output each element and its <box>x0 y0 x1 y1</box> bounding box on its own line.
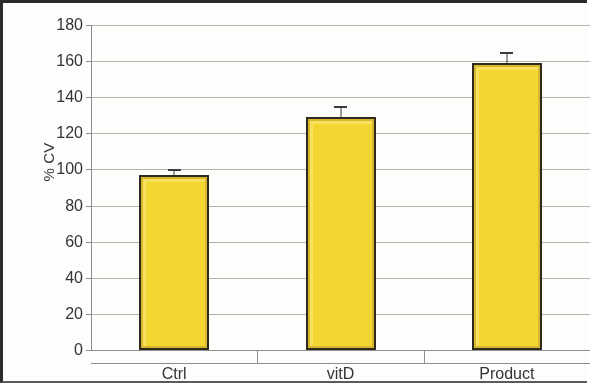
y-tick-mark <box>86 350 92 351</box>
plot-area <box>91 25 590 350</box>
y-tick-label: 40 <box>37 270 83 286</box>
x-tick-label: Ctrl <box>114 365 234 383</box>
bar-group[interactable] <box>472 25 542 350</box>
error-bar-cap <box>334 106 347 108</box>
y-axis-tick-labels: 020406080100120140160180 <box>31 3 83 383</box>
y-tick-label: 100 <box>37 161 83 177</box>
y-tick-label: 0 <box>37 342 83 358</box>
error-bar <box>340 106 341 117</box>
y-tick-label: 80 <box>37 198 83 214</box>
y-tick-label: 160 <box>37 53 83 69</box>
bar-group[interactable] <box>139 25 209 350</box>
y-tick-label: 140 <box>37 89 83 105</box>
y-tick-label: 120 <box>37 125 83 141</box>
gridline <box>91 350 590 351</box>
x-separator-tick <box>424 350 425 363</box>
x-tick-label: Product <box>447 365 567 383</box>
error-bar-cap <box>500 52 513 54</box>
x-axis-line <box>91 363 590 364</box>
x-tick-label: vitD <box>281 365 401 383</box>
x-separator-tick <box>257 350 258 363</box>
y-tick-label: 180 <box>37 17 83 33</box>
error-bar <box>174 169 175 174</box>
error-bar <box>506 52 507 63</box>
bar[interactable] <box>139 175 209 350</box>
error-bar-cap <box>168 169 181 171</box>
bar[interactable] <box>306 117 376 350</box>
bars-layer <box>91 25 590 350</box>
bar[interactable] <box>472 63 542 350</box>
y-tick-label: 60 <box>37 234 83 250</box>
y-tick-label: 20 <box>37 306 83 322</box>
bar-group[interactable] <box>306 25 376 350</box>
